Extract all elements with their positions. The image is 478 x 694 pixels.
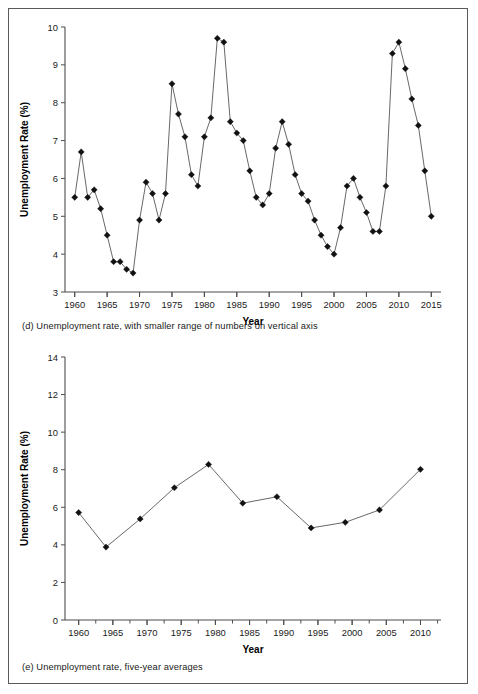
y-tick-label: 5 — [53, 211, 58, 222]
x-tick-label: 1985 — [239, 627, 260, 638]
data-point-marker — [389, 50, 395, 56]
data-point-marker — [175, 111, 181, 117]
y-tick-label: 14 — [48, 352, 58, 363]
data-point-marker — [370, 228, 376, 234]
x-tick-label: 1995 — [291, 299, 312, 310]
y-tick-label: 8 — [53, 464, 58, 475]
x-tick-label: 2000 — [342, 627, 363, 638]
x-tick-label: 2000 — [324, 299, 345, 310]
data-point-marker — [156, 217, 162, 223]
data-point-marker — [104, 232, 110, 238]
data-point-marker — [162, 190, 168, 196]
figure-frame: 3456789101960196519701975198019851990199… — [8, 8, 468, 684]
data-point-marker — [149, 190, 155, 196]
data-point-marker — [318, 232, 324, 238]
y-tick-label: 10 — [48, 22, 58, 33]
x-tick-label: 1995 — [308, 627, 329, 638]
x-tick-label: 1965 — [102, 627, 123, 638]
y-tick-label: 8 — [53, 97, 58, 108]
data-point-marker — [143, 179, 149, 185]
chart-panel-e: 0246810121419601965197019751980198519901… — [9, 339, 467, 683]
y-tick-label: 3 — [53, 287, 58, 298]
data-point-marker — [422, 168, 428, 174]
data-point-marker — [136, 217, 142, 223]
data-point-marker — [415, 122, 421, 128]
data-point-marker — [357, 194, 363, 200]
y-tick-label: 7 — [53, 135, 58, 146]
y-tick-label: 10 — [48, 427, 58, 438]
data-point-marker — [337, 225, 343, 231]
y-tick-label: 9 — [53, 59, 58, 70]
x-tick-label: 1980 — [205, 627, 226, 638]
x-tick-label: 2010 — [388, 299, 409, 310]
y-tick-label: 2 — [53, 577, 58, 588]
data-point-marker — [182, 134, 188, 140]
data-point-marker — [409, 96, 415, 102]
caption-e: (e) Unemployment rate, five-year average… — [22, 662, 203, 672]
data-point-marker — [169, 81, 175, 87]
y-axis-title: Unemployment Rate (%) — [19, 431, 30, 546]
data-point-marker — [266, 190, 272, 196]
data-point-marker — [214, 35, 220, 41]
series-line — [79, 464, 421, 547]
unemployment-annual-chart: 3456789101960196519701975198019851990199… — [9, 9, 469, 339]
x-tick-label: 2010 — [410, 627, 431, 638]
data-point-marker — [227, 119, 233, 125]
data-point-marker — [72, 194, 78, 200]
data-point-marker — [111, 259, 117, 265]
data-point-marker — [188, 172, 194, 178]
data-point-marker — [396, 39, 402, 45]
unemployment-fiveyear-chart: 0246810121419601965197019751980198519901… — [9, 339, 469, 683]
data-point-marker — [376, 228, 382, 234]
data-point-marker — [383, 183, 389, 189]
x-tick-label: 1990 — [259, 299, 280, 310]
data-point-marker — [130, 270, 136, 276]
y-tick-label: 4 — [53, 539, 58, 550]
data-point-marker — [311, 217, 317, 223]
data-point-marker — [286, 141, 292, 147]
data-point-marker — [402, 66, 408, 72]
x-tick-label: 2015 — [421, 299, 442, 310]
data-point-marker — [363, 209, 369, 215]
x-tick-label: 1970 — [137, 627, 158, 638]
data-point-marker — [428, 213, 434, 219]
series-line — [75, 38, 432, 273]
x-axis-title: Year — [242, 644, 263, 655]
data-point-marker — [279, 119, 285, 125]
x-tick-label: 1960 — [68, 627, 89, 638]
chart-panel-d: 3456789101960196519701975198019851990199… — [9, 9, 467, 339]
data-point-marker — [342, 519, 348, 525]
x-tick-label: 1975 — [162, 299, 183, 310]
x-tick-label: 1980 — [194, 299, 215, 310]
data-point-marker — [292, 172, 298, 178]
x-tick-label: 2005 — [356, 299, 377, 310]
x-tick-label: 1985 — [226, 299, 247, 310]
data-point-marker — [201, 134, 207, 140]
x-tick-label: 1970 — [129, 299, 150, 310]
data-point-marker — [273, 145, 279, 151]
y-tick-label: 12 — [48, 389, 58, 400]
y-tick-label: 6 — [53, 502, 58, 513]
data-point-marker — [208, 115, 214, 121]
y-tick-label: 4 — [53, 249, 58, 260]
x-tick-label: 1965 — [97, 299, 118, 310]
x-tick-label: 1990 — [273, 627, 294, 638]
data-point-marker — [247, 168, 253, 174]
y-tick-label: 6 — [53, 173, 58, 184]
caption-d: (d) Unemployment rate, with smaller rang… — [22, 321, 318, 331]
data-point-marker — [98, 206, 104, 212]
x-tick-label: 2005 — [376, 627, 397, 638]
x-tick-label: 1975 — [171, 627, 192, 638]
x-tick-label: 1960 — [64, 299, 85, 310]
y-axis-title: Unemployment Rate (%) — [19, 102, 30, 217]
y-tick-label: 0 — [53, 615, 58, 626]
data-point-marker — [78, 149, 84, 155]
data-point-marker — [195, 183, 201, 189]
data-point-marker — [221, 39, 227, 45]
